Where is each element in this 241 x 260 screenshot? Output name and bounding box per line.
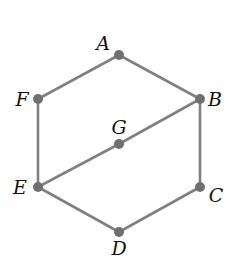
graph-nodes: [33, 50, 205, 237]
node-b: [195, 94, 205, 104]
node-label-d: D: [110, 237, 126, 259]
edge-d-e: [38, 187, 119, 232]
edge-a-b: [119, 55, 200, 99]
node-d: [114, 227, 124, 237]
hexagon-graph-diagram: ABCDEFG: [0, 0, 241, 260]
node-label-a: A: [94, 32, 110, 54]
node-a: [114, 50, 124, 60]
node-label-e: E: [12, 176, 27, 198]
node-label-c: C: [209, 184, 224, 206]
node-label-f: F: [14, 88, 29, 110]
node-c: [195, 182, 205, 192]
edge-g-b: [119, 99, 200, 144]
edge-c-d: [119, 187, 200, 232]
node-g: [114, 139, 124, 149]
node-f: [33, 94, 43, 104]
edge-e-g: [38, 144, 119, 187]
node-label-g: G: [111, 116, 126, 138]
edge-f-a: [38, 55, 119, 99]
node-label-b: B: [207, 88, 222, 110]
node-e: [33, 182, 43, 192]
